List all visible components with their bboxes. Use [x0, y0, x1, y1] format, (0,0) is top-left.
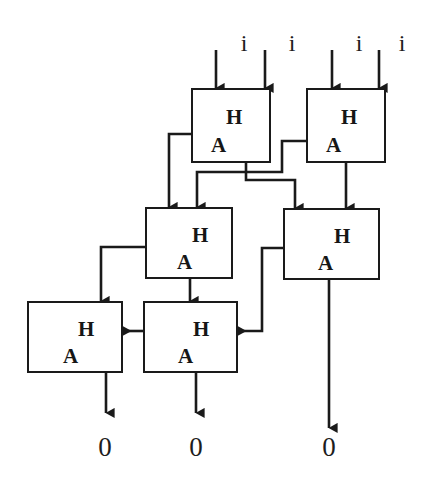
wire-ha-middle-left-carry-to-ha-bottom-left [101, 247, 145, 301]
wire-ha-middle-right-carry-to-ha-bottom-middle [238, 248, 283, 331]
ha-cell-top-left-label-h: H [226, 107, 242, 128]
input-label-3: i [352, 31, 366, 55]
ha-cell-middle-right-label-a: A [318, 253, 333, 274]
output-label-1: 0 [96, 434, 114, 461]
ha-cell-middle-left-label-a: A [177, 252, 192, 273]
wire-ha-top-left-carry-to-ha-middle-left [169, 134, 191, 207]
wire-ha-top-left-sum-to-ha-middle-right [246, 163, 295, 208]
input-label-4: i [395, 31, 409, 55]
ha-cell-top-right-label-a: A [326, 135, 341, 156]
ha-cell-middle-left-label-h: H [192, 225, 208, 246]
ha-cell-bottom-middle-label-a: A [178, 346, 193, 367]
ha-cell-top-right-label-h: H [341, 107, 357, 128]
ha-cell-bottom-left-label-a: A [63, 346, 78, 367]
input-label-1: i [237, 31, 251, 55]
ha-cell-bottom-middle-label-h: H [193, 319, 209, 340]
output-label-2: 0 [187, 434, 205, 461]
output-label-3: 0 [320, 434, 338, 461]
ha-cell-middle-right-label-h: H [334, 226, 350, 247]
diagram-canvas: H A H A H A H A H A H A i i i i 0 0 0 [0, 0, 434, 488]
ha-cell-top-left-label-a: A [211, 135, 226, 156]
ha-cell-bottom-left-label-h: H [78, 319, 94, 340]
input-label-2: i [285, 31, 299, 55]
